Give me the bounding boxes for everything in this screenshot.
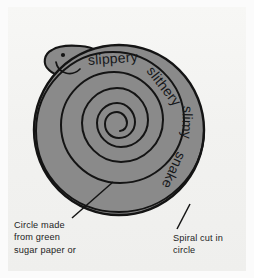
illustration-page: slippery slithery slimy snake Circle mad… bbox=[0, 0, 254, 278]
leader-line-right bbox=[177, 204, 190, 229]
caption-spiral-cut: Spiral cut in circle bbox=[173, 232, 253, 257]
spiral-word-slimy: slimy bbox=[179, 106, 196, 139]
caption-circle-material: Circle made from green sugar paper or bbox=[14, 219, 124, 256]
snake-eye-icon bbox=[61, 53, 65, 57]
